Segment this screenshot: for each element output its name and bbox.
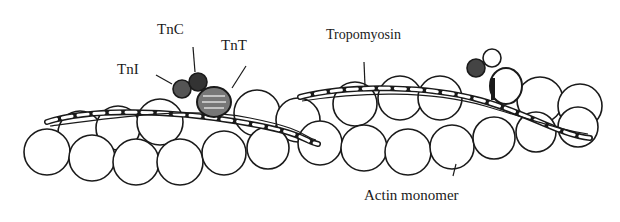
tnc-subunit [189, 73, 207, 91]
actin-monomer [202, 131, 246, 175]
actin-monomer [385, 129, 431, 175]
tnc-label: TnC [157, 22, 184, 37]
actin-monomer [113, 139, 159, 185]
actin-monomer-label: Actin monomer [364, 188, 459, 203]
troponin-complex-left [173, 73, 231, 117]
actin-monomer [24, 129, 70, 175]
actin-monomer [69, 135, 115, 181]
tropomyosin-label: Tropomyosin [326, 28, 401, 42]
actin-monomer [430, 125, 474, 169]
actin-monomer [341, 125, 387, 171]
actin-monomer [137, 99, 183, 145]
thin-filament-diagram [0, 0, 620, 222]
tnt-label: TnT [221, 38, 247, 53]
actin-monomer [558, 107, 598, 147]
actin-monomer [378, 76, 422, 120]
actin-monomer [157, 139, 203, 185]
actin-monomer [473, 117, 515, 159]
actin-monomer [418, 76, 462, 120]
tni-label: TnI [117, 62, 139, 77]
